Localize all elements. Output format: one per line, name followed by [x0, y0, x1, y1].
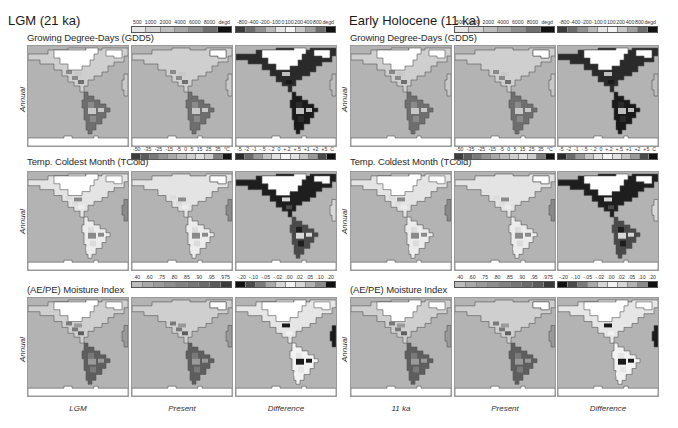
colorbar-swatch — [484, 27, 498, 32]
map-panel-moisture-index-difference — [557, 297, 659, 397]
colorbar-swatch — [214, 154, 223, 159]
colorbar-tick-labels: -5-2-1-.5-.20+.2+.5+1+2+5C — [235, 146, 336, 153]
colorbar-tick-label: -800 — [237, 19, 247, 26]
colorbar-swatch — [286, 282, 296, 287]
difference-colorbar: -.20-.10-.05-.02.00.02.05.10.20 — [557, 274, 658, 288]
colorbar-swatch — [533, 282, 544, 287]
colorbar-swatch — [175, 27, 189, 32]
colorbar-swatch — [296, 27, 306, 32]
map-panel-tcold-lgm — [27, 171, 129, 271]
abs-colorbar: .40.60.75.80.85.90.95.975 — [454, 274, 555, 288]
colorbar-tick-label: .02 — [296, 274, 303, 281]
map-panel-gdd5-present — [454, 45, 556, 147]
colorbar-swatch — [203, 27, 217, 32]
colorbar-swatch — [455, 282, 466, 287]
colorbar-tick-label: .00 — [607, 274, 614, 281]
colorbar-swatch — [154, 282, 165, 287]
colorbar-tick-label: 0 — [507, 146, 510, 153]
colorbar-swatch — [188, 282, 199, 287]
colorbar-swatch — [638, 282, 648, 287]
colorbar-strip — [235, 281, 336, 288]
colorbar-tick-label: -200 — [259, 19, 269, 26]
map-panel-tcold-11ka — [350, 171, 452, 271]
colorbar-tick-label: .10 — [638, 274, 645, 281]
map-panel-gdd5-difference — [235, 45, 337, 147]
colorbar-swatch — [585, 154, 594, 159]
colorbar-tick-label: -2 — [245, 146, 250, 153]
colorbar-tick-label: .60 — [468, 274, 475, 281]
colorbar-swatch — [455, 27, 469, 32]
colorbar-tick-label: .00 — [285, 274, 292, 281]
colorbar-tick-label: -50 — [133, 146, 141, 153]
colorbar-swatch — [221, 282, 231, 287]
colorbar-swatch — [631, 154, 640, 159]
colorbar-tick-label: .40 — [456, 274, 463, 281]
colorbar-swatch — [541, 27, 554, 32]
row-title-moisture-holocene: (AE/PE) Moisture Index — [350, 284, 447, 295]
colorbar-swatch — [146, 27, 160, 32]
colorbar-tick-label: +1 — [304, 146, 310, 153]
colorbar-tick-label: 1000 — [468, 19, 480, 26]
abs-colorbar: -50-35-25-15-505152535°C — [454, 146, 555, 160]
colorbar-tick-label: .95 — [530, 274, 537, 281]
colorbar-strip — [557, 281, 658, 288]
colorbar-tick-label: -.10 — [571, 274, 580, 281]
colorbar-tick-label: -800 — [559, 19, 569, 26]
colorbar-tick-label: -.02 — [273, 274, 282, 281]
colorbar-tick-label: +.5 — [615, 146, 622, 153]
colorbar-tick-label: -.05 — [261, 274, 270, 281]
colorbar-tick-label: .90 — [518, 274, 525, 281]
colorbar-swatch — [618, 27, 628, 32]
colorbar-tick-labels: .40.60.75.80.85.90.95.975 — [131, 274, 232, 281]
colorbar-swatch — [511, 282, 522, 287]
colorbar-swatch — [132, 27, 146, 32]
colorbar-strip — [557, 26, 658, 33]
colorbar-swatch — [165, 282, 176, 287]
colorbar-swatch — [176, 282, 187, 287]
abs-colorbar: -50-35-25-15-505152535°C — [131, 146, 232, 160]
colorbar-strip — [235, 153, 336, 160]
colorbar-tick-label: 4000 — [497, 19, 509, 26]
colorbar-swatch — [159, 154, 168, 159]
colorbar-swatch — [576, 154, 585, 159]
colorbar-strip — [454, 26, 555, 33]
colorbar-tick-label: -25 — [478, 146, 486, 153]
colorbar-tick-label: degd — [644, 19, 656, 26]
column-label-difference: Difference — [235, 404, 337, 413]
colorbar-tick-label: 6000 — [189, 19, 201, 26]
colorbar-tick-label: +5 — [643, 146, 649, 153]
colorbar-swatch — [558, 27, 568, 32]
colorbar-swatch — [498, 27, 512, 32]
colorbar-swatch — [649, 154, 657, 159]
map-panel-tcold-difference — [557, 171, 659, 271]
side-label-annual: Annual — [340, 337, 349, 362]
colorbar-tick-label: 6000 — [512, 19, 524, 26]
difference-colorbar: -.20-.10-.05-.02.00.02.05.10.20 — [235, 274, 336, 288]
colorbar-tick-label: °C — [547, 146, 553, 153]
colorbar-swatch — [276, 27, 286, 32]
colorbar-swatch — [500, 154, 509, 159]
colorbar-swatch — [469, 27, 483, 32]
colorbar-strip — [557, 153, 658, 160]
map-panel-tcold-present — [454, 171, 556, 271]
colorbar-swatch — [618, 282, 628, 287]
colorbar-tick-labels: -50-35-25-15-505152535°C — [131, 146, 232, 153]
colorbar-tick-labels: -.20-.10-.05-.02.00.02.05.10.20 — [557, 274, 658, 281]
colorbar-tick-label: 0 — [603, 19, 606, 26]
colorbar-tick-label: 500 — [133, 19, 142, 26]
colorbar-swatch — [510, 154, 519, 159]
map-panel-gdd5-lgm — [27, 45, 129, 147]
colorbar-swatch — [309, 154, 318, 159]
colorbar-tick-label: 1000 — [145, 19, 157, 26]
colorbar-tick-label: 0 — [277, 146, 280, 153]
colorbar-tick-label: -35 — [467, 146, 475, 153]
side-label-annual: Annual — [340, 87, 349, 112]
colorbar-tick-label: 0 — [184, 146, 187, 153]
colorbar-swatch — [187, 154, 196, 159]
colorbar-swatch — [218, 27, 231, 32]
colorbar-tick-label: .85 — [183, 274, 190, 281]
side-label-annual: Annual — [18, 87, 27, 112]
colorbar-tick-label: 4000 — [174, 19, 186, 26]
colorbar-swatch — [648, 282, 657, 287]
colorbar-strip — [454, 153, 555, 160]
